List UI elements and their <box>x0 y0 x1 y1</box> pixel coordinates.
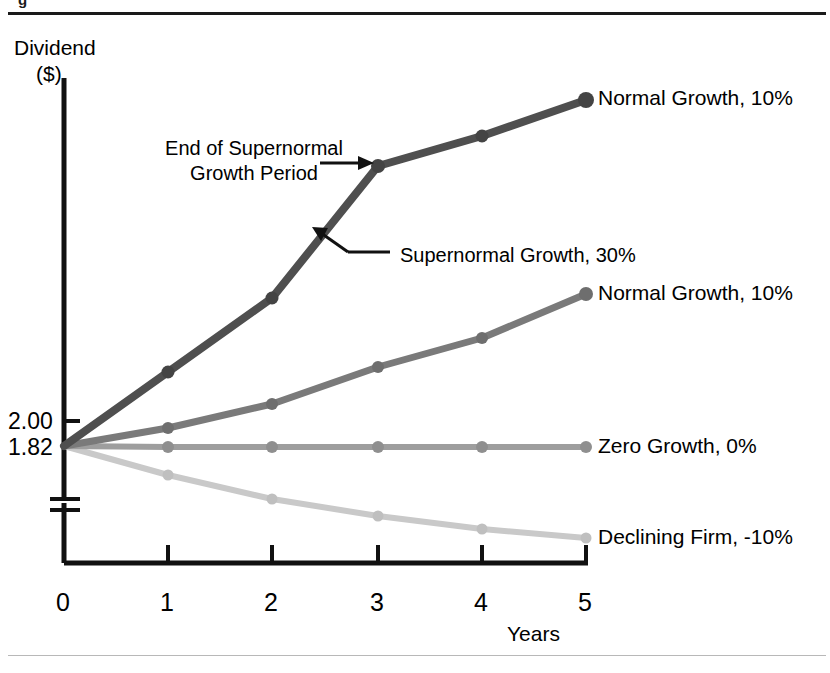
figure-container: g Dividend ($) 2.00 1.82 0 1 2 3 4 5 Yea… <box>0 0 830 673</box>
series-line-declining-firm <box>64 446 592 544</box>
series-line-zero-growth <box>64 441 592 453</box>
x-axis-ticks <box>168 545 586 563</box>
annotation-arrow-end-of-supernormal <box>320 156 374 170</box>
series-line-supernormal-growth <box>64 92 594 446</box>
series-line-normal-growth <box>64 287 593 446</box>
plot-area <box>0 0 830 673</box>
